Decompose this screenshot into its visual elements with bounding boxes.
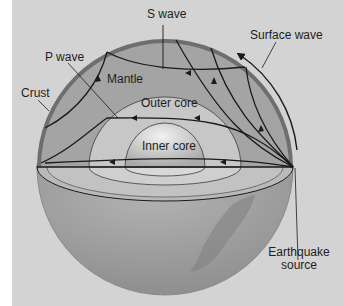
p-wave-label: P wave — [45, 51, 84, 64]
outer-core-label: Outer core — [141, 97, 198, 110]
crust-label: Crust — [21, 87, 50, 100]
inner-core-label: Inner core — [142, 140, 196, 153]
earthquake-source-line2: source — [266, 259, 332, 272]
mantle-label: Mantle — [107, 73, 143, 86]
s-wave-label: S wave — [147, 8, 186, 21]
surface-wave-label: Surface wave — [250, 29, 323, 42]
earthquake-source-label: Earthquake source — [266, 246, 332, 272]
